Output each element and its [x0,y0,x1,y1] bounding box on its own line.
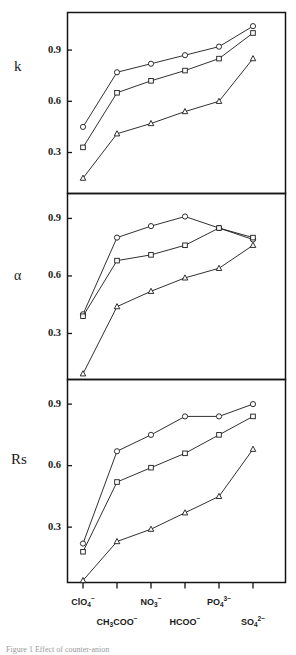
series-triangle-panel-0 [80,56,256,181]
y-tick-label: 0.9 [31,398,61,409]
panel-label-alpha: α [14,268,21,284]
y-tick-label: 0.9 [31,44,61,55]
data-point-open-square [251,414,256,419]
x-tick-label-HCOO: HCOO− [156,617,214,627]
data-point-open-circle [114,235,119,240]
series-circle-panel-0 [80,24,255,130]
x-tick-label-ClO4: ClO4− [54,597,112,607]
series-line-circle [83,217,253,315]
x-tick-label-CH3COO: CH3COO− [88,617,146,627]
data-point-open-circle [148,61,153,66]
data-point-open-square [149,253,154,258]
data-point-open-square [217,433,222,438]
panel-frame-0 [68,13,286,194]
data-point-open-triangle [148,526,154,531]
data-point-open-triangle [250,242,256,247]
data-point-open-circle [114,449,119,454]
data-point-open-square [115,90,120,95]
data-point-open-triangle [250,56,256,61]
data-point-open-square [149,79,154,84]
data-point-open-triangle [216,265,222,270]
data-point-open-square [81,145,86,150]
data-point-open-square [217,56,222,61]
panel-label-rs: Rs [11,451,27,468]
series-line-triangle [83,59,253,179]
series-square-panel-1 [81,226,256,319]
series-circle-panel-2 [80,402,255,547]
data-point-open-square [115,258,120,263]
x-tick-label-PO43: PO43− [190,597,248,607]
data-point-open-square [183,243,188,248]
data-point-open-square [81,549,86,554]
series-square-panel-0 [81,31,256,150]
data-point-open-square [217,226,222,231]
data-point-open-circle [148,432,153,437]
data-point-open-square [183,451,188,456]
axis-ticks [68,50,254,588]
data-point-open-circle [216,414,221,419]
series-triangle-panel-1 [80,242,256,376]
y-tick-label: 0.6 [31,269,61,280]
y-tick-label: 0.3 [31,146,61,157]
figure-container: k α Rs 0.30.60.90.30.60.90.30.60.9 ClO4−… [0,0,296,655]
y-tick-label: 0.9 [31,212,61,223]
y-tick-label: 0.3 [31,327,61,338]
y-tick-label: 0.6 [31,95,61,106]
data-point-open-square [251,31,256,36]
y-tick-label: 0.6 [31,459,61,470]
data-point-open-circle [182,214,187,219]
y-tick-label: 0.3 [31,521,61,532]
data-point-open-triangle [80,371,86,376]
data-point-open-square [251,235,256,240]
series-triangle-panel-2 [80,446,256,582]
data-point-open-square [81,314,86,319]
data-point-open-circle [148,223,153,228]
x-tick-label-NO3: NO3− [122,597,180,607]
data-point-open-circle [80,541,85,546]
panel-label-k: k [14,58,22,75]
data-point-open-triangle [182,510,188,515]
data-point-open-circle [182,53,187,58]
series-circle-panel-1 [80,214,255,317]
data-point-open-circle [216,44,221,49]
series-square-panel-2 [81,414,256,554]
data-series [80,24,256,583]
data-point-open-circle [182,414,187,419]
panel-frame-2 [68,380,286,583]
data-point-open-square [115,480,120,485]
data-point-open-square [183,68,188,73]
x-tick-label-SO42: SO42− [224,617,282,627]
series-line-circle [83,26,253,127]
data-point-open-square [149,465,154,470]
series-line-square [83,228,253,316]
series-line-circle [83,404,253,543]
data-point-open-circle [80,124,85,129]
series-line-triangle [83,449,253,580]
series-line-triangle [83,245,253,373]
data-point-open-triangle [250,446,256,451]
panel-frame-1 [68,194,286,380]
data-point-open-circle [250,402,255,407]
figure-caption: Figure 1 Effect of counter-anion [6,645,292,655]
data-point-open-circle [114,70,119,75]
data-point-open-circle [250,24,255,29]
